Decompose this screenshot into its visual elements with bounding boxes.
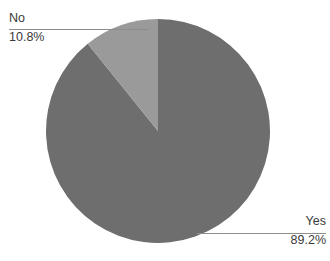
callout-no-label: No [9,11,44,26]
pie-chart-graphic [0,0,330,261]
callout-yes-value: 89.2% [291,233,326,248]
pie-chart-figure: No 10.8% Yes 89.2% [0,0,330,261]
callout-no-value: 10.8% [9,30,44,45]
callout-no: No 10.8% [9,11,44,45]
pie-slices [46,19,270,243]
callout-yes-label: Yes [291,214,326,229]
pie-slice-yes [46,19,270,243]
callout-yes: Yes 89.2% [291,214,326,248]
